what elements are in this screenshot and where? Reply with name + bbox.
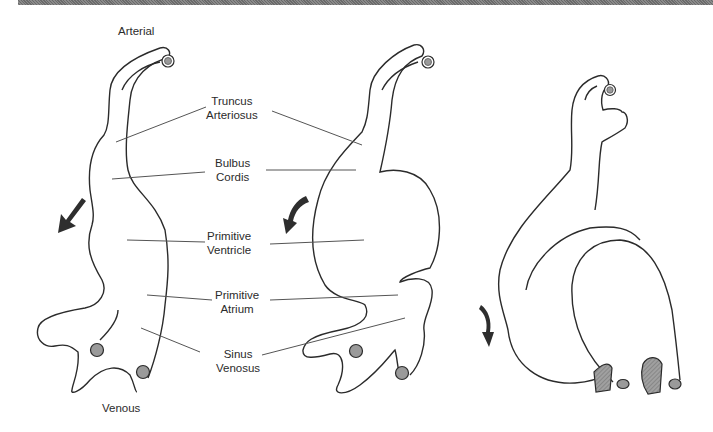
- label-line-2: Venosus: [216, 361, 260, 375]
- venous-vessel-right: [137, 366, 150, 379]
- label-primitive-ventricle: Primitive Ventricle: [207, 229, 251, 257]
- stage-1-straight-tube: [37, 48, 169, 393]
- label-line-2: Arteriosus: [206, 108, 258, 122]
- stage-2-looping-tube: [303, 45, 440, 393]
- label-line-2: Atrium: [215, 302, 259, 316]
- label-line-2: Cordis: [215, 170, 250, 184]
- arrow-curved-down-icon: [283, 196, 309, 234]
- venous-fold: [100, 310, 118, 340]
- label-bulbus-cordis: Bulbus Cordis: [215, 156, 250, 184]
- heart-tube-diagram: [0, 0, 713, 432]
- label-truncus-arteriosus: Truncus Arteriosus: [206, 94, 258, 122]
- leader-lines: [112, 107, 405, 355]
- label-line-1: Bulbus: [215, 156, 250, 170]
- venous-vessel-left-2: [350, 345, 363, 358]
- venous-vessel-left: [91, 344, 104, 357]
- label-primitive-atrium: Primitive Atrium: [215, 288, 259, 316]
- arterial-vessel-lumen: [165, 58, 172, 65]
- arterial-vessel-lumen-2: [425, 59, 432, 66]
- tube-outline-left: [37, 48, 160, 392]
- venous-vessel-3b: [669, 379, 681, 389]
- label-line-1: Truncus: [206, 94, 258, 108]
- arterial-label: Arterial: [118, 24, 154, 38]
- stage-3-folded-heart: [499, 76, 680, 384]
- venous-vessel-right-2: [396, 367, 409, 380]
- venous-label: Venous: [102, 401, 140, 415]
- label-line-1: Sinus: [216, 347, 260, 361]
- label-line-1: Primitive: [207, 229, 251, 243]
- arterial-vessel-lumen-3: [607, 87, 613, 93]
- shaded-vessel-left: [594, 364, 612, 392]
- tube-outline-right: [126, 48, 169, 378]
- label-sinus-venosus: Sinus Venosus: [216, 347, 260, 375]
- label-line-2: Ventricle: [207, 243, 251, 257]
- shaded-vessel-right: [642, 358, 662, 394]
- arrow-down-left-icon: [58, 198, 86, 233]
- arrow-curved-down-icon-2: [479, 305, 494, 347]
- venous-vessel-3a: [617, 380, 629, 389]
- label-line-1: Primitive: [215, 288, 259, 302]
- tube-inner-fold: [122, 62, 160, 90]
